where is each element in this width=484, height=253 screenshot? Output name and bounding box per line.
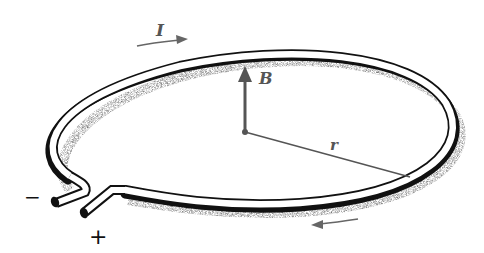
plus-terminal-label: + bbox=[89, 224, 107, 249]
field-label: B bbox=[258, 69, 273, 88]
current-label: I bbox=[155, 20, 165, 40]
minus-terminal-label: − bbox=[24, 185, 41, 209]
b-field-arrow bbox=[238, 66, 252, 132]
radius-line bbox=[245, 132, 410, 177]
radius-label: r bbox=[330, 136, 339, 154]
current-arrow-bottom bbox=[311, 219, 358, 229]
current-loop-diagram: I B r − + bbox=[0, 0, 484, 253]
